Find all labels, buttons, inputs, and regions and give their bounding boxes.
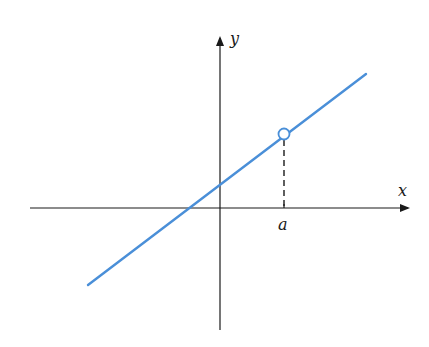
x-axis-label: x — [398, 181, 407, 200]
hole-open-circle — [279, 129, 290, 140]
function-line — [88, 74, 366, 285]
y-axis-label: y — [229, 29, 240, 48]
point-a-label: a — [278, 215, 288, 234]
function-graph: y x a — [0, 0, 429, 347]
